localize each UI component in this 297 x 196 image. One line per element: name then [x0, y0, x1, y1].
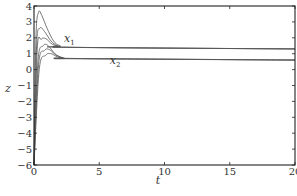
y-tick-labels: 43210−1−2−3−4−5−6: [17, 1, 32, 171]
ticks: [34, 6, 295, 165]
x-tick-label: 0: [31, 166, 37, 177]
x-tick-label: 5: [96, 166, 102, 177]
y-tick-label: −1: [17, 80, 32, 91]
y-tick-label: −3: [17, 112, 32, 123]
annotation-x1: x1: [64, 32, 75, 47]
y-tick-label: −4: [17, 128, 32, 139]
x-axis-label: t: [156, 174, 161, 187]
y-tick-label: 4: [26, 1, 32, 12]
y-tick-label: −2: [17, 96, 32, 107]
y-tick-label: −5: [17, 144, 32, 155]
series-line-x2: [34, 44, 295, 165]
y-tick-label: 2: [26, 32, 32, 43]
annotations: x1x2: [64, 32, 120, 69]
chart: 43210−1−2−3−4−5−6 05101520 t z x1x2: [0, 0, 297, 196]
x-tick-label: 15: [223, 166, 236, 177]
x-tick-labels: 05101520: [31, 166, 297, 177]
x-tick-label: 20: [289, 166, 297, 177]
annotation-x2: x2: [110, 54, 121, 69]
y-tick-label: −6: [17, 160, 32, 171]
series-line-x1: [34, 37, 295, 165]
y-tick-label: 0: [26, 64, 32, 75]
series-line-x2: [34, 49, 295, 165]
series-line-x1: [34, 11, 295, 165]
series-line-x2: [34, 53, 295, 165]
curves: [34, 11, 295, 165]
y-tick-label: 3: [26, 16, 32, 27]
y-axis-label: z: [4, 82, 11, 95]
axes-frame: [34, 6, 295, 165]
y-tick-label: 1: [26, 48, 32, 59]
